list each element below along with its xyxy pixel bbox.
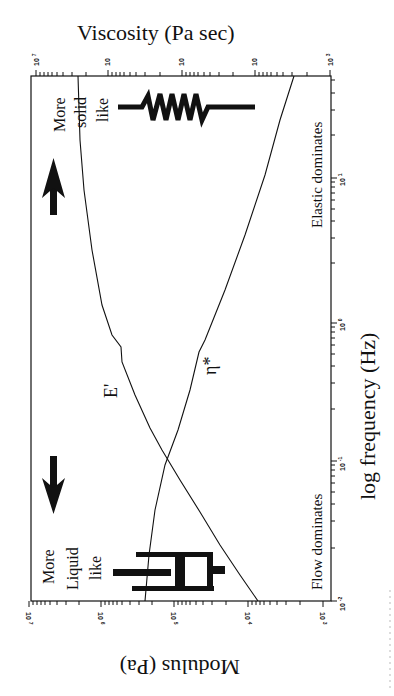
modulus-tick-labels: 10 7 10 6 10 5 10 4 10 3 (25, 612, 328, 625)
e-prime-label: E' (101, 384, 121, 398)
svg-text:10 1: 10 1 (337, 173, 346, 186)
chart-canvas: More solid like More Liquid like Elastic… (0, 0, 394, 696)
svg-text:10 0: 10 0 (337, 318, 346, 331)
frequency-axis-ticks (331, 80, 337, 601)
frequency-tick-labels: 10 1 10 0 10 -1 10 -2 (337, 173, 346, 611)
e-prime-curve (78, 76, 258, 601)
elastic-dominates-label: Elastic dominates (309, 122, 325, 228)
svg-text:10: 10 (104, 58, 111, 66)
frequency-axis-title: log frequency (Hz) (355, 333, 380, 500)
more-liquid-label-3: like (87, 556, 104, 580)
arrow-up-icon (42, 158, 65, 215)
arrow-down-icon (42, 456, 65, 514)
svg-text:10: 10 (178, 58, 185, 66)
viscosity-axis-ticks (36, 70, 330, 76)
spring-icon (118, 94, 255, 120)
svg-text:10 3: 10 3 (319, 612, 328, 625)
svg-text:10 7: 10 7 (25, 612, 34, 625)
more-liquid-label-1: More (40, 549, 57, 584)
more-solid-label-2: solid (72, 97, 89, 128)
svg-text:10 -2: 10 -2 (337, 597, 346, 611)
svg-text:10 3: 10 3 (325, 53, 334, 66)
svg-text:10 6: 10 6 (97, 612, 106, 625)
modulus-axis-ticks (29, 601, 323, 607)
svg-text:10 5: 10 5 (170, 612, 179, 625)
more-solid-label-3: like (94, 98, 111, 122)
svg-text:10 4: 10 4 (244, 612, 253, 625)
svg-text:10 7: 10 7 (31, 53, 40, 66)
modulus-axis-title: Modulus (Pa) (120, 655, 240, 680)
more-liquid-label-2: Liquid (64, 547, 82, 590)
plot-frame (31, 76, 331, 601)
dashpot-icon (113, 552, 225, 591)
viscosity-axis-title: Viscosity (Pa sec) (77, 20, 235, 45)
svg-text:10 -1: 10 -1 (337, 457, 346, 471)
svg-text:10: 10 (251, 58, 258, 66)
more-solid-label-1: More (51, 97, 68, 132)
eta-star-label: η* (200, 357, 220, 375)
eta-star-curve (145, 76, 294, 601)
viscosity-tick-labels: 10 7 10 10 10 10 3 (31, 53, 334, 66)
flow-dominates-label: Flow dominates (309, 494, 325, 590)
